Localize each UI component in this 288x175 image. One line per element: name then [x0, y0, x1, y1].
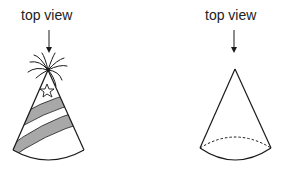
- hat-base-curve: [13, 150, 84, 160]
- party-hat-figure: [5, 30, 86, 162]
- cone-base-back-dashed: [200, 137, 271, 148]
- cone-base-front: [200, 148, 271, 160]
- cone-outline: [200, 69, 235, 148]
- diagram-canvas: [0, 0, 288, 175]
- star-icon: [40, 84, 54, 97]
- cone-figure: [200, 30, 271, 160]
